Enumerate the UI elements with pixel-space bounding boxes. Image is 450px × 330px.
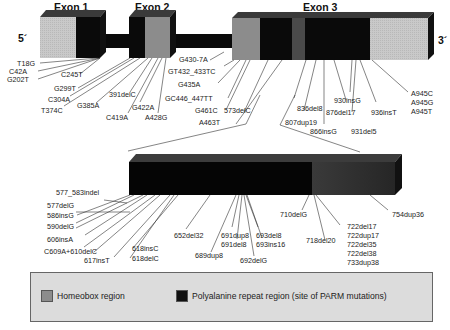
mutation-label: G202T [7, 75, 30, 84]
polyalanine-swatch-icon [176, 290, 188, 302]
mutation-label: G422A [132, 103, 155, 112]
mutation-label: 691dup8 [221, 231, 249, 240]
exon-3-polyalanine [305, 18, 370, 60]
legend-label: Homeobox region [57, 291, 125, 301]
mutation-label: C245T [61, 70, 83, 79]
legend: Homeobox region Polyalanine repeat regio… [30, 272, 433, 322]
mutation-label: 586insG [47, 211, 74, 220]
homeobox-swatch-icon [41, 290, 53, 302]
mutation-label: 617insT [84, 256, 110, 265]
mutation-label: 754dup36 [392, 210, 424, 219]
mutation-label: 836del8 [297, 104, 323, 113]
mutation-label: A463T [199, 118, 221, 127]
mutation-label: A428G [145, 113, 168, 122]
mutation-label: C609A+610delC [44, 247, 97, 256]
mutation-label: 722del17 [347, 222, 377, 231]
mutation-label: T374C [41, 106, 63, 115]
mutation-label: G385A [77, 101, 100, 110]
exon-3-title: Exon 3 [303, 1, 338, 13]
mutation-label: 722dup17 [347, 231, 379, 240]
mutation-label: A945G [411, 98, 434, 107]
exon-3-homeobox [232, 18, 260, 60]
mutation-label: 733dup38 [347, 258, 379, 267]
mutation-label: A945T [411, 107, 433, 116]
mutation-label: 652del32 [174, 231, 204, 240]
mutation-label: G430-7A [179, 55, 208, 64]
mutation-label: 391delC [109, 90, 136, 99]
expanded-polyalanine [129, 162, 312, 195]
expand-line-left [128, 124, 246, 151]
mutation-label: 618insC [132, 244, 158, 253]
mutation-label: G461C [195, 106, 218, 115]
legend-item-polyalanine: Polyalanine repeat region (site of PARM … [176, 290, 387, 302]
mutation-label: 691del8 [221, 240, 247, 249]
mutation-label: 718del20 [306, 236, 336, 245]
mutation-label: 590delG [47, 222, 75, 231]
legend-label: Polyalanine repeat region (site of PARM … [192, 291, 387, 301]
mutation-label: 692delG [240, 256, 268, 265]
mutation-label: 606insA [47, 235, 73, 244]
mutation-label: 693ins16 [256, 240, 285, 249]
mutation-label: 876del17 [326, 108, 356, 117]
exon-2-box [129, 10, 176, 58]
mutation-label: 807dup19 [285, 118, 317, 127]
mutation-label: G299T [54, 84, 77, 93]
exon-3-utr [370, 18, 428, 60]
exon-3-box [232, 12, 434, 60]
expanded-tail [312, 162, 395, 195]
mutation-label: 693del8 [256, 231, 282, 240]
mutation-label: C304A [48, 95, 70, 104]
exon-1-utr [40, 17, 76, 58]
mutation-label: GC446_447TT [165, 94, 213, 103]
five-prime-label: 5´ [18, 32, 28, 44]
mutation-label: 577delG [47, 201, 75, 210]
mutation-label: 689dup8 [195, 251, 223, 260]
exon-2-homeobox [145, 17, 170, 58]
mutation-label: 722del35 [347, 240, 377, 249]
mutation-label: 577_583indel [56, 188, 100, 197]
intron-1 [104, 34, 131, 48]
mutation-label: G435A [178, 80, 201, 89]
expanded-region-box [129, 154, 402, 195]
mutation-label: 931del5 [351, 127, 377, 136]
mutation-label: 710delG [280, 210, 308, 219]
intron-2 [174, 34, 234, 48]
mutation-label: 930insG [334, 96, 361, 105]
mutation-label: A945C [411, 89, 433, 98]
mutation-label: 866insG [310, 127, 337, 136]
mutation-label: C419A [106, 113, 128, 122]
mutation-label: 618delC [132, 254, 159, 263]
three-prime-label: 3´ [438, 34, 448, 46]
legend-item-homeobox: Homeobox region [41, 290, 125, 302]
mutation-label: 936insT [371, 108, 397, 117]
mutation-label: 722del38 [347, 249, 377, 258]
mutation-label: 573delC [224, 106, 251, 115]
exon-1-box [40, 10, 106, 58]
mutation-label: GT432_433TC [168, 67, 216, 76]
